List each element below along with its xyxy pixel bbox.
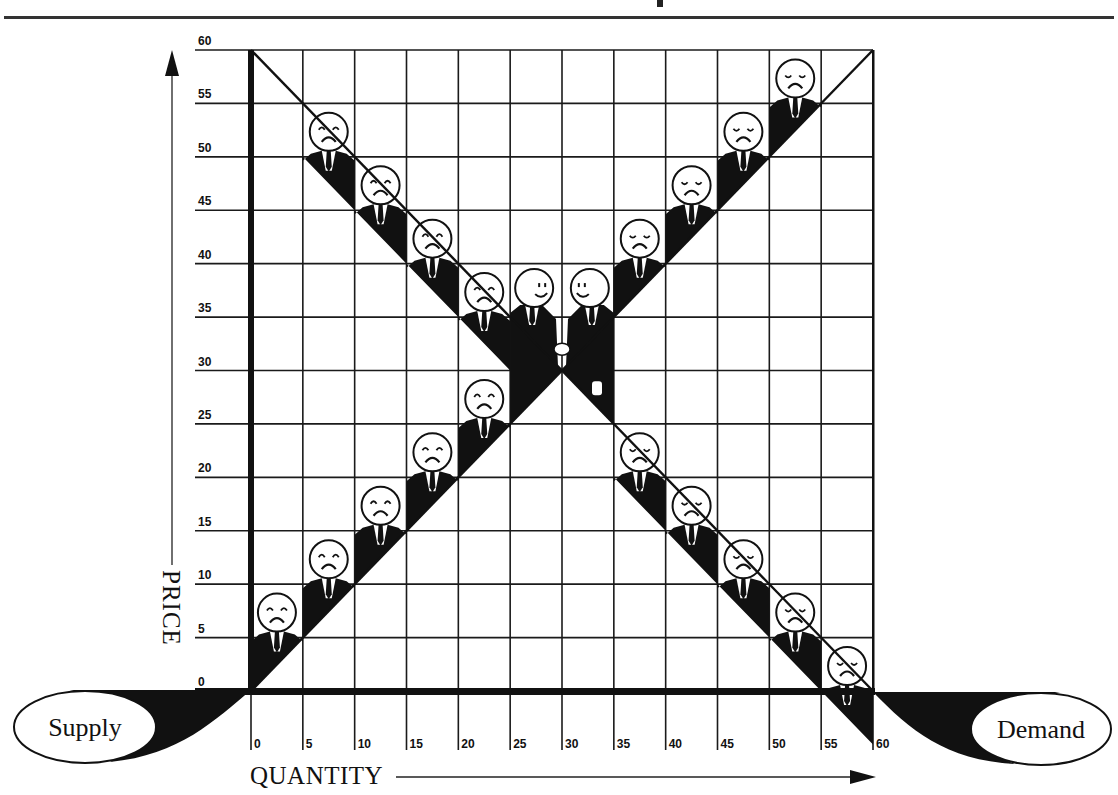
supply-figure [355, 487, 407, 584]
demand-upper-figure [303, 113, 355, 210]
seller-body [510, 305, 562, 424]
demand-lower-figure [614, 433, 666, 530]
supply-upper-figure [769, 59, 821, 156]
face-icon [776, 59, 814, 97]
face-icon [362, 487, 400, 525]
y-tick-label: 40 [198, 248, 212, 262]
face-icon [673, 166, 711, 204]
title-fragment [657, 0, 663, 7]
x-tick-label: 0 [254, 737, 261, 751]
x-tick-label: 25 [513, 737, 527, 751]
supply-demand-diagram: 0510152025303540455055600510152025303540… [0, 0, 1118, 795]
x-tick-label: 60 [876, 737, 890, 751]
top-rule [4, 16, 1114, 19]
supply-upper-figure [666, 166, 718, 263]
face-icon [465, 380, 503, 418]
x-tick-label: 15 [410, 737, 424, 751]
x-tick-label: 10 [358, 737, 372, 751]
face-icon [258, 594, 296, 632]
face-icon [724, 113, 762, 151]
x-tick-label: 5 [306, 737, 313, 751]
right-border [872, 50, 875, 691]
y-tick-label: 25 [198, 408, 212, 422]
y-axis [248, 50, 254, 694]
supply-upper-figure [614, 220, 666, 317]
x-axis-label: QUANTITY [250, 762, 383, 789]
face-icon [310, 540, 348, 578]
y-tick-label: 10 [198, 568, 212, 582]
hand-icon [592, 381, 602, 395]
y-tick-label: 60 [198, 34, 212, 48]
handshake-icon [554, 343, 570, 355]
x-tick-label: 40 [669, 737, 683, 751]
supply-figure [303, 540, 355, 637]
demand-upper-figure [458, 273, 510, 370]
y-axis-arrow [165, 50, 179, 565]
demand-label: Demand [997, 715, 1085, 744]
x-tick-label: 45 [721, 737, 735, 751]
face-icon [571, 269, 609, 307]
supply-figure [251, 594, 303, 691]
y-tick-label: 50 [198, 141, 212, 155]
supply-figure [407, 433, 459, 530]
x-tick-label: 55 [824, 737, 838, 751]
y-tick-label: 45 [198, 194, 212, 208]
face-icon [621, 220, 659, 258]
demand-upper-figure [407, 220, 459, 317]
y-tick-label: 30 [198, 355, 212, 369]
buyer-body [562, 305, 614, 424]
face-icon [413, 433, 451, 471]
x-axis [195, 688, 875, 695]
y-axis-label: PRICE [158, 570, 185, 646]
y-tick-label: 35 [198, 301, 212, 315]
face-icon [515, 269, 553, 307]
demand-upper-figure [355, 166, 407, 263]
supply-label: Supply [48, 713, 122, 742]
demand-lower-figure [769, 594, 821, 691]
supply-upper-figure [718, 113, 770, 210]
demand-lower-figure [718, 540, 770, 637]
y-tick-label: 5 [198, 622, 205, 636]
demand-lower-figure [666, 487, 718, 584]
x-tick-label: 30 [565, 737, 579, 751]
arrow-up-icon [165, 50, 179, 76]
y-tick-label: 15 [198, 515, 212, 529]
y-tick-label: 0 [198, 675, 205, 689]
y-tick-label: 55 [198, 87, 212, 101]
x-tick-label: 20 [461, 737, 475, 751]
demand-lower-figure [821, 647, 873, 744]
supply-figure [458, 380, 510, 477]
y-tick-label: 20 [198, 461, 212, 475]
x-tick-label: 35 [617, 737, 631, 751]
arrow-right-icon [850, 770, 876, 784]
x-tick-label: 50 [772, 737, 786, 751]
x-axis-arrow [396, 770, 876, 784]
